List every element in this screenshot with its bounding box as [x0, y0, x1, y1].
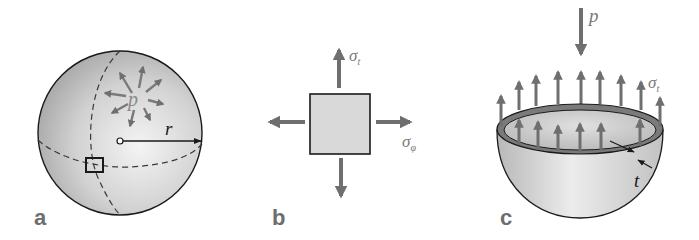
sigma-phi-label: σφ [402, 132, 416, 153]
panel-a: r p a [34, 51, 202, 230]
sigma-t-label-c: σt [648, 73, 659, 94]
center-point [117, 138, 123, 144]
panel-c: p σt t c [497, 5, 663, 230]
panel-label-b: b [272, 205, 285, 230]
panel-b: σt σφ b [270, 46, 416, 230]
radius-label: r [165, 118, 173, 139]
pressure-label: p [126, 88, 138, 111]
pressure-label-c: p [587, 5, 599, 26]
stress-element [310, 94, 370, 154]
sphere [38, 51, 202, 215]
thickness-label: t [634, 170, 640, 191]
panel-label-a: a [34, 205, 47, 230]
stress-diagram: r p a σt σφ b [0, 0, 699, 240]
sigma-t-label: σt [349, 46, 360, 67]
panel-label-c: c [500, 205, 512, 230]
